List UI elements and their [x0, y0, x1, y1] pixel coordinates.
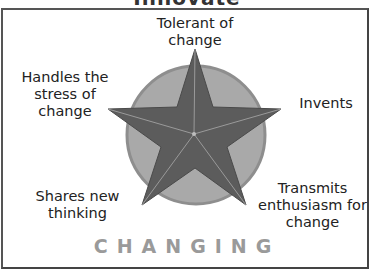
- label-line: thinking: [20, 205, 135, 222]
- label-transmits-enthusiasm: Transmits enthusiasm for change: [255, 180, 370, 231]
- label-line: Handles the: [10, 69, 120, 86]
- label-line: Invents: [286, 95, 366, 112]
- center-dot: [192, 132, 196, 136]
- label-line: enthusiasm for: [255, 197, 370, 214]
- footer-caption: CHANGING: [0, 235, 374, 257]
- label-shares-new-thinking: Shares new thinking: [20, 188, 135, 222]
- label-handles-stress: Handles the stress of change: [10, 69, 120, 120]
- label-invents: Invents: [286, 95, 366, 112]
- label-line: stress of: [10, 86, 120, 103]
- label-line: change: [10, 103, 120, 120]
- label-line: Shares new: [20, 188, 135, 205]
- label-tolerant-of-change: Tolerant of change: [145, 15, 245, 49]
- label-line: change: [255, 214, 370, 231]
- label-line: Transmits: [255, 180, 370, 197]
- label-line: Tolerant of: [145, 15, 245, 32]
- label-line: change: [145, 32, 245, 49]
